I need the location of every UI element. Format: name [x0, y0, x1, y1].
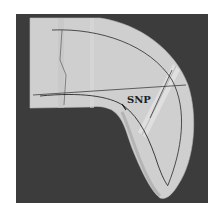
snp-label: SNP	[127, 94, 151, 105]
collar-pattern-photo: SNP	[0, 0, 224, 221]
fabric-fold-shade	[90, 18, 94, 108]
